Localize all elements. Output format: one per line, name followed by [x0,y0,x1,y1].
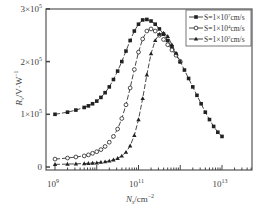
svg-text:Rv/V·W−1: Rv/V·W−1 [13,70,25,106]
x-axis-ticks: 10910111013 [47,165,251,189]
x-axis-label: Ns/cm−2 [125,193,154,205]
x-tick-label: 1011 [129,178,144,189]
x-tick-label: 109 [47,178,59,189]
y-tick-label: 1×105 [20,108,42,119]
chart: 01×1052×1053×105 10910111013 Rv/V·W−1 Ns… [0,0,259,207]
legend-label: S=1×104cm/s [204,24,245,33]
svg-text:Ns/cm−2: Ns/cm−2 [125,193,154,205]
series-open-circle [53,27,182,161]
legend-label: S=1×107cm/s [204,13,245,22]
y-tick-label: 0 [38,162,43,172]
legend-label: S=1×102cm/s [204,35,245,44]
y-tick-label: 3×105 [20,3,42,14]
x-tick-label: 1013 [213,178,228,189]
legend: S=1×107cm/sS=1×104cm/sS=1×102cm/s [186,10,251,46]
series-filled-triangle [53,31,183,166]
y-axis-label: Rv/V·W−1 [13,70,25,106]
y-tick-label: 2×105 [20,56,42,67]
